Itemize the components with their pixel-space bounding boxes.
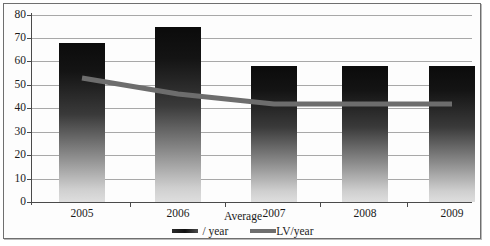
y-axis-label-60: 60 (6, 55, 26, 67)
y-tick-10 (27, 179, 32, 180)
y-tick-50 (27, 85, 32, 86)
y-axis-line (31, 13, 32, 205)
legend-label-lv-per-year: LV/year (276, 225, 313, 237)
x-tick-3 (320, 202, 321, 207)
chart-gridlines (32, 15, 472, 202)
legend-title: Average (4, 210, 482, 222)
y-axis-label-70: 70 (6, 32, 26, 44)
legend-entries: / year LV/year (4, 223, 482, 237)
y-tick-60 (27, 61, 32, 62)
legend-entry-per-year: / year (172, 224, 228, 237)
x-tick-2 (225, 202, 226, 207)
chart-figure-frame: 80 70 60 50 40 30 20 10 0 2005 2006 2007… (3, 3, 481, 239)
y-axis-label-20: 20 (6, 149, 26, 161)
y-tick-0 (27, 202, 32, 203)
y-tick-30 (27, 132, 32, 133)
y-axis-label-50: 50 (6, 79, 26, 91)
legend-label-per-year: / year (202, 225, 228, 237)
y-tick-80 (27, 15, 32, 16)
y-axis-label-0: 0 (6, 196, 26, 208)
y-tick-20 (27, 155, 32, 156)
gridline-0-baseline (32, 202, 472, 203)
legend-swatch-bar-icon (172, 229, 198, 233)
y-axis-label-10: 10 (6, 173, 26, 185)
x-tick-1 (130, 202, 131, 207)
y-axis-label-80: 80 (6, 9, 26, 21)
y-tick-70 (27, 38, 32, 39)
line-series-lv-per-year (32, 15, 472, 202)
lv-per-year-polyline (82, 78, 452, 104)
chart-legend: Average / year LV/year (4, 210, 482, 237)
legend-swatch-line-icon (250, 229, 276, 233)
legend-entry-lv-per-year: LV/year (250, 224, 313, 237)
y-tick-40 (27, 108, 32, 109)
y-axis-label-40: 40 (6, 102, 26, 114)
x-tick-4 (407, 202, 408, 207)
y-axis-label-30: 30 (6, 126, 26, 138)
